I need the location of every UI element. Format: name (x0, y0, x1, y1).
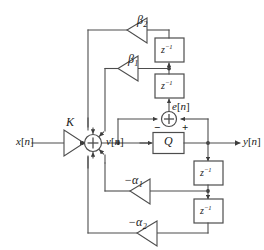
diagram-canvas (0, 0, 264, 250)
gain-k-triangle (64, 130, 84, 156)
label-node-v: v[n] (106, 136, 124, 147)
label-delay-output-first: z−1 (200, 167, 212, 178)
label-gain-beta1: β1 (128, 53, 138, 68)
adder-arrow-from-lower-right (100, 150, 104, 154)
label-error-signal: e[n] (172, 101, 190, 112)
label-gain-beta2: β2 (137, 14, 147, 29)
label-delay-top: z−1 (161, 44, 173, 55)
label-input-signal: x[n] (16, 136, 34, 147)
label-gain-alpha1: −α1 (124, 174, 143, 189)
label-gain-k: K (66, 116, 74, 128)
adder-arrow-from-upper-right (100, 132, 104, 136)
label-delay-output-second: z−1 (200, 205, 212, 216)
error-adder-minus-sign: − (154, 122, 160, 133)
label-output-signal: y[n] (243, 136, 261, 147)
label-delay-second: z−1 (161, 80, 173, 91)
label-quantizer: Q (164, 135, 173, 147)
label-gain-alpha2: −α2 (128, 216, 147, 231)
error-adder-plus-sign: + (182, 122, 188, 133)
block-diagram-figure: x[n] K v[n] e[n] y[n] β1 β2 −α1 −α2 − + … (0, 0, 264, 250)
